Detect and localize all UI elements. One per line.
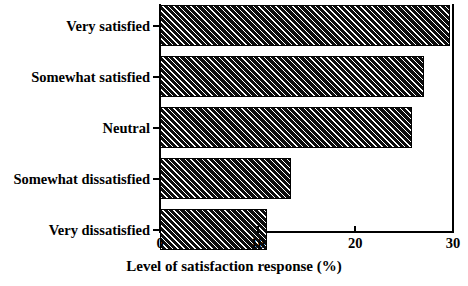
y-axis-tick-label: Neutral — [102, 120, 150, 135]
y-axis-tick — [153, 178, 160, 180]
x-axis-title: Level of satisfaction response (%) — [0, 258, 468, 275]
bar — [160, 158, 291, 199]
x-axis-tick — [452, 226, 454, 233]
bar — [160, 107, 412, 148]
y-axis-tick — [153, 127, 160, 129]
x-axis-tick — [159, 226, 161, 233]
y-axis-tick-label: Somewhat satisfied — [31, 69, 150, 84]
y-axis-tick — [153, 25, 160, 27]
y-axis-tick-label: Somewhat dissatisfied — [13, 171, 150, 186]
x-axis-tick-label: 10 — [250, 236, 265, 251]
y-axis-tick-label: Very dissatisfied — [49, 222, 150, 237]
bar-chart-figure: Very satisfiedSomewhat satisfiedNeutralS… — [0, 0, 468, 286]
bar — [160, 56, 424, 97]
x-axis-tick-label: 30 — [446, 236, 461, 251]
plot-right-border — [452, 4, 454, 233]
bar — [160, 5, 450, 46]
x-axis-tick-label: 20 — [348, 236, 363, 251]
x-axis-tick — [257, 226, 259, 233]
y-axis-tick-label: Very satisfied — [66, 18, 150, 33]
y-axis-tick — [153, 76, 160, 78]
x-axis-tick — [354, 226, 356, 233]
x-axis-tick-label: 0 — [156, 236, 163, 251]
